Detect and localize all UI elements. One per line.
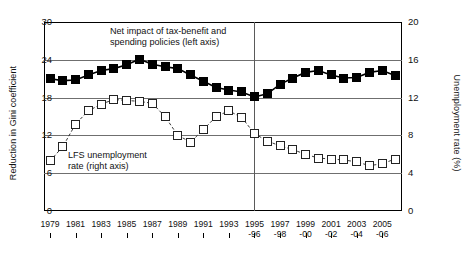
x-axis-tick — [76, 233, 77, 238]
series2-annotation-line2: rate (right axis) — [68, 161, 129, 171]
unemployment-marker — [46, 156, 55, 165]
right-axis-tick-label: 8 — [408, 129, 448, 140]
unemployment-marker — [212, 112, 221, 121]
left-axis-tick-label: 12 — [0, 129, 52, 140]
unemployment-marker — [314, 154, 323, 163]
unemployment-marker — [250, 129, 259, 138]
unemployment-marker — [352, 157, 361, 166]
left-axis-tick-label: 18 — [0, 92, 52, 103]
unemployment-marker — [186, 138, 195, 147]
net-impact-marker — [276, 80, 285, 89]
unemployment-marker — [288, 145, 297, 154]
right-axis-title: Unemployment rate (%) — [452, 48, 462, 198]
x-axis-tick — [101, 233, 102, 238]
net-impact-marker — [109, 64, 118, 73]
unemployment-marker — [109, 95, 118, 104]
unemployment-marker — [135, 97, 144, 106]
unemployment-marker — [224, 106, 233, 115]
net-impact-marker — [224, 86, 233, 95]
unemployment-marker — [122, 96, 131, 105]
left-axis-tick-label: 0 — [0, 205, 52, 216]
unemployment-marker — [263, 137, 272, 146]
net-impact-marker — [352, 73, 361, 82]
unemployment-marker — [161, 112, 170, 121]
net-impact-marker — [365, 68, 374, 77]
right-axis-tick-label: 4 — [408, 167, 448, 178]
x-axis-tick — [152, 233, 153, 238]
series2-annotation-line1: LFS unemployment — [68, 150, 147, 160]
unemployment-marker — [237, 113, 246, 122]
net-impact-marker — [135, 55, 144, 64]
unemployment-marker — [365, 161, 374, 170]
x-axis-tick — [229, 233, 230, 238]
net-impact-marker — [212, 83, 221, 92]
x-axis-tick-label: 2005-06 — [362, 219, 402, 239]
left-axis-tick-label: 24 — [0, 54, 52, 65]
net-impact-marker — [122, 60, 131, 69]
net-impact-marker — [84, 70, 93, 79]
plot-area: Net impact of tax-benefit and spending p… — [44, 22, 402, 211]
right-axis-tick-label: 20 — [408, 16, 448, 27]
net-impact-marker — [97, 66, 106, 75]
series1-annotation: Net impact of tax-benefit and spending p… — [110, 26, 226, 49]
x-axis-tick — [178, 233, 179, 238]
net-impact-marker — [71, 75, 80, 84]
left-axis-tick-label: 6 — [0, 167, 52, 178]
net-impact-marker — [378, 66, 387, 75]
unemployment-marker — [339, 155, 348, 164]
net-impact-marker — [199, 77, 208, 86]
unemployment-marker — [327, 155, 336, 164]
net-impact-marker — [148, 60, 157, 69]
unemployment-marker — [148, 99, 157, 108]
net-impact-marker — [339, 74, 348, 83]
net-impact-marker — [301, 68, 310, 77]
x-axis-tick — [203, 233, 204, 238]
x-axis-tick — [50, 233, 51, 238]
right-axis-tick-label: 12 — [408, 92, 448, 103]
unemployment-marker — [378, 159, 387, 168]
unemployment-marker — [71, 120, 80, 129]
x-axis-tick — [127, 233, 128, 238]
unemployment-marker — [58, 142, 67, 151]
series2-annotation: LFS unemployment rate (right axis) — [68, 150, 147, 173]
net-impact-marker — [327, 70, 336, 79]
unemployment-marker — [391, 155, 400, 164]
x-tick-year-suffix: -06 — [362, 229, 402, 239]
left-axis-tick-label: 30 — [0, 16, 52, 27]
right-axis-tick-label: 16 — [408, 54, 448, 65]
net-impact-marker — [250, 92, 259, 101]
net-impact-marker — [288, 74, 297, 83]
net-impact-marker — [173, 64, 182, 73]
net-impact-marker — [161, 62, 170, 71]
net-impact-marker — [237, 87, 246, 96]
net-impact-marker — [186, 70, 195, 79]
right-axis-tick-label: 0 — [408, 205, 448, 216]
unemployment-marker — [173, 131, 182, 140]
unemployment-marker — [301, 150, 310, 159]
x-tick-year: 2005 — [373, 219, 392, 229]
net-impact-marker — [46, 74, 55, 83]
unemployment-marker — [97, 100, 106, 109]
unemployment-marker — [84, 106, 93, 115]
net-impact-marker — [263, 89, 272, 98]
net-impact-marker — [314, 66, 323, 75]
series-connector-lines — [44, 22, 402, 211]
unemployment-marker — [276, 141, 285, 150]
net-impact-marker — [391, 71, 400, 80]
series1-annotation-line2: spending policies (left axis) — [110, 37, 219, 47]
unemployment-marker — [199, 125, 208, 134]
series1-annotation-line1: Net impact of tax-benefit and — [110, 26, 226, 36]
net-impact-marker — [58, 76, 67, 85]
